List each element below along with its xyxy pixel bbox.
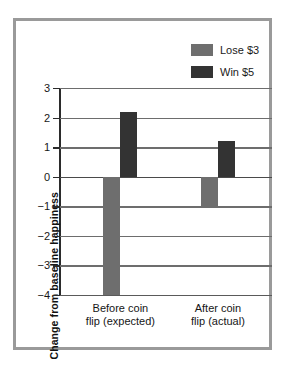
y-tick--3 xyxy=(53,265,60,266)
y-tick-label--1: −1 xyxy=(37,201,50,212)
x-category-label-2: After coinflip (actual) xyxy=(191,302,245,328)
y-tick-label-1: 1 xyxy=(44,142,50,153)
legend-swatch-lose xyxy=(191,44,213,56)
legend-item-win: Win $5 xyxy=(191,63,281,80)
y-tick--2 xyxy=(53,236,60,237)
bar-win-group2 xyxy=(218,141,235,176)
y-tick-1 xyxy=(53,147,60,148)
legend-label-lose: Lose $3 xyxy=(220,44,259,56)
figure-frame: Lose $3 Win $5 Change from baseline happ… xyxy=(13,18,272,350)
bar-lose-group1 xyxy=(103,177,120,295)
bar-win-group1 xyxy=(120,112,137,177)
x-category-label-1-line1: Before coin xyxy=(86,302,155,315)
plot-area: Change from baseline happiness 3210−1−2−… xyxy=(60,88,272,295)
gridline-3 xyxy=(60,88,272,89)
y-tick-label--2: −2 xyxy=(37,230,50,241)
y-tick-label-0: 0 xyxy=(44,171,50,182)
gridline-0 xyxy=(60,177,272,179)
y-tick-label--4: −4 xyxy=(37,290,50,301)
legend-swatch-win xyxy=(191,66,213,78)
gridline--4 xyxy=(60,295,272,296)
y-tick-label-3: 3 xyxy=(44,83,50,94)
y-tick-3 xyxy=(53,88,60,89)
y-tick--1 xyxy=(53,206,60,207)
legend-item-lose: Lose $3 xyxy=(191,41,281,58)
y-tick-label-2: 2 xyxy=(44,112,50,123)
x-category-label-2-line2: flip (actual) xyxy=(191,315,245,328)
gridline--1 xyxy=(60,206,272,207)
x-category-label-1-line2: flip (expected) xyxy=(86,315,155,328)
y-tick-2 xyxy=(53,118,60,119)
gridline--3 xyxy=(60,265,272,266)
gridline--2 xyxy=(60,236,272,237)
y-tick--4 xyxy=(53,295,60,296)
figure-canvas: Lose $3 Win $5 Change from baseline happ… xyxy=(16,21,269,347)
x-category-label-1: Before coinflip (expected) xyxy=(86,302,155,328)
gridline-2 xyxy=(60,118,272,119)
legend-label-win: Win $5 xyxy=(220,66,254,78)
chart-legend: Lose $3 Win $5 xyxy=(191,41,281,85)
gridline-1 xyxy=(60,147,272,148)
bar-lose-group2 xyxy=(201,177,218,207)
y-tick-0 xyxy=(53,177,60,178)
x-category-label-2-line1: After coin xyxy=(191,302,245,315)
y-tick-label--3: −3 xyxy=(37,260,50,271)
y-axis-title: Change from baseline happiness xyxy=(48,192,60,360)
